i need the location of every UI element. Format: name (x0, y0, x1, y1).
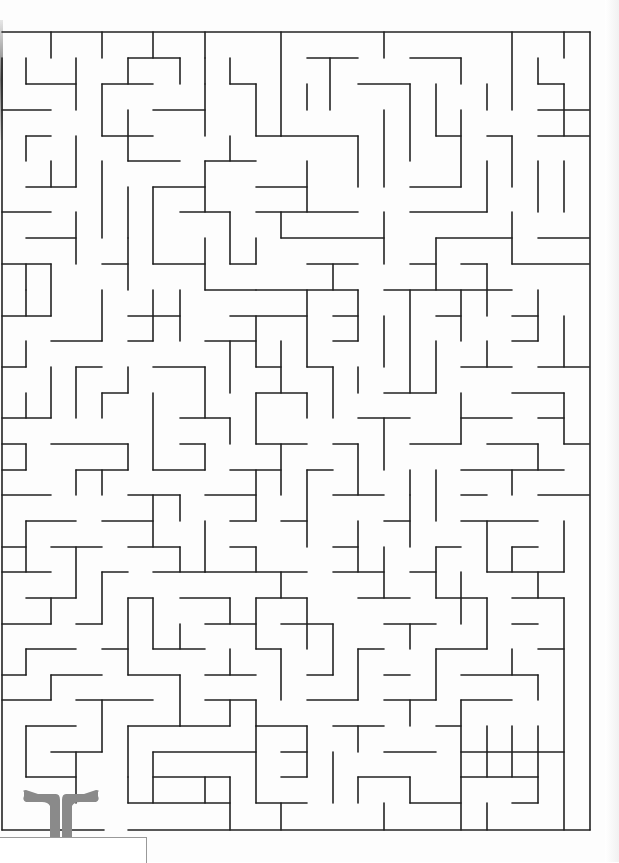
publisher-logo-icon (18, 788, 104, 838)
page-footer-tab (0, 837, 147, 863)
